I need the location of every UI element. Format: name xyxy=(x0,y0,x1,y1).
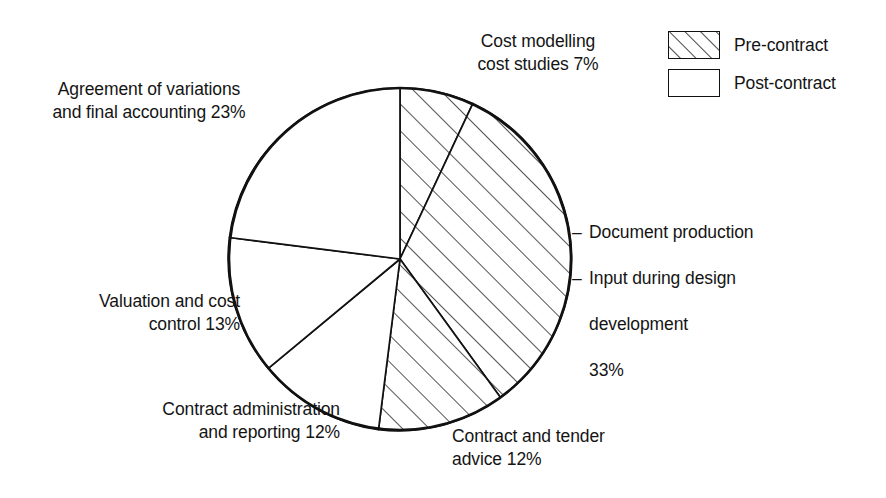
legend-swatch-white xyxy=(668,69,720,97)
legend-label-post-contract: Post-contract xyxy=(734,73,836,94)
bullet-text-input-during-design: Input during design xyxy=(589,267,822,290)
label-contract-tender-advice: Contract and tender advice 12% xyxy=(452,425,662,471)
legend-swatch-hatched xyxy=(668,31,720,59)
bullet-row-document-production: – Document production xyxy=(572,221,822,244)
label-document-production-value: 33% xyxy=(572,359,822,382)
legend-item-post-contract: Post-contract xyxy=(668,64,878,102)
label-valuation-cost-control: Valuation and cost control 13% xyxy=(26,290,240,336)
label-cost-modelling: Cost modelling cost studies 7% xyxy=(428,30,648,76)
bullet-row-input-during-design: – Input during design xyxy=(572,267,822,290)
label-agreement-of-variations: Agreement of variations and final accoun… xyxy=(18,78,280,124)
dash-icon: – xyxy=(572,221,583,244)
legend-item-pre-contract: Pre-contract xyxy=(668,26,878,64)
label-document-production: – Document production – Input during des… xyxy=(572,198,822,405)
chart-legend: Pre-contract Post-contract xyxy=(668,26,878,102)
pie-chart-figure: Cost modelling cost studies 7% Agreement… xyxy=(0,0,886,498)
dash-icon: – xyxy=(572,267,583,290)
bullet-text-document-production: Document production xyxy=(589,221,822,244)
bullet-text-development: development xyxy=(572,313,822,336)
legend-label-pre-contract: Pre-contract xyxy=(734,35,828,56)
label-contract-administration: Contract administration and reporting 12… xyxy=(76,398,340,444)
